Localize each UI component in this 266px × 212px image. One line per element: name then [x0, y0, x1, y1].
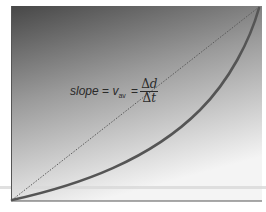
formula-fraction: Δd Δt	[140, 78, 158, 105]
delta-symbol: Δ	[143, 91, 152, 105]
slope-formula: slope = v av = Δd Δt	[70, 74, 158, 108]
delta-symbol: Δ	[141, 77, 150, 91]
fraction-denominator: Δt	[143, 92, 157, 105]
formula-lhs: slope	[70, 84, 99, 98]
numerator-variable: d	[150, 77, 158, 91]
denominator-variable: t	[151, 91, 156, 105]
formula-subscript: av	[118, 92, 125, 99]
formula-equals-1: =	[99, 84, 113, 98]
fraction-numerator: Δd	[140, 78, 158, 92]
formula-equals-2: =	[128, 84, 138, 98]
horizontal-band	[0, 186, 266, 189]
